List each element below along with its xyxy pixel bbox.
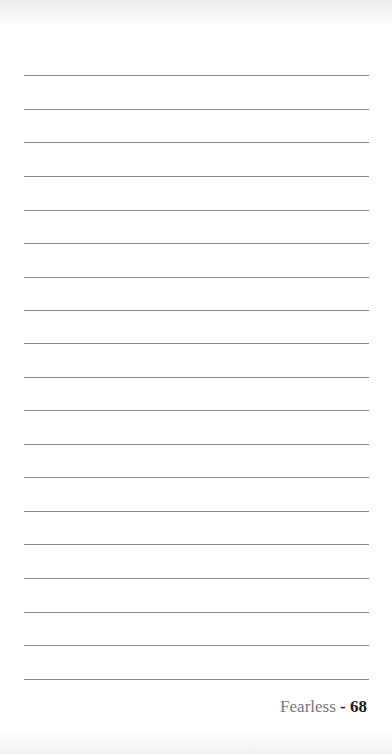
ruled-line bbox=[24, 243, 369, 244]
ruled-line bbox=[24, 645, 369, 646]
ruled-line bbox=[24, 176, 369, 177]
page-footer: Fearless - 68 bbox=[280, 697, 367, 717]
footer-separator: - bbox=[336, 697, 350, 716]
ruled-line bbox=[24, 544, 369, 545]
ruled-line bbox=[24, 612, 369, 613]
page-number: 68 bbox=[350, 697, 367, 716]
book-title: Fearless bbox=[280, 697, 336, 716]
ruled-line bbox=[24, 410, 369, 411]
ruled-line bbox=[24, 310, 369, 311]
ruled-line bbox=[24, 277, 369, 278]
ruled-line bbox=[24, 511, 369, 512]
page-bottom-shadow bbox=[0, 732, 392, 754]
ruled-line bbox=[24, 109, 369, 110]
ruled-line bbox=[24, 578, 369, 579]
ruled-line bbox=[24, 343, 369, 344]
ruled-line bbox=[24, 210, 369, 211]
ruled-line bbox=[24, 679, 369, 680]
ruled-lines bbox=[0, 0, 392, 754]
ruled-line bbox=[24, 377, 369, 378]
ruled-line bbox=[24, 75, 369, 76]
ruled-line bbox=[24, 142, 369, 143]
ruled-line bbox=[24, 477, 369, 478]
ruled-line bbox=[24, 444, 369, 445]
